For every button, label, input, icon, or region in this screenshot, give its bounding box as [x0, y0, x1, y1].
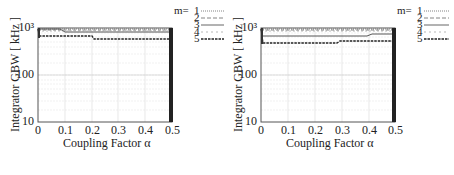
x-tick-0.5-left: 0.5	[165, 123, 180, 138]
chart-left: Integrator GBW [ kHz ] 10³ 100 10 0 0.1 …	[0, 0, 227, 175]
x-tick-0-right: 0	[258, 123, 264, 138]
chart-right: Integrator GBW [ kHz ] 10³ 100 10 0 0.1 …	[227, 0, 454, 175]
y-tick-10-left: 10	[10, 114, 34, 129]
x-axis-label-right: Coupling Factor α	[286, 136, 374, 151]
x-tick-0.5-right: 0.5	[388, 123, 403, 138]
y-tick-100-left: 100	[10, 67, 34, 82]
legend-swatches-right	[227, 0, 454, 60]
x-tick-0-left: 0	[35, 123, 41, 138]
y-tick-10-right: 10	[233, 114, 257, 129]
legend-swatches-left	[0, 0, 227, 60]
y-tick-100-right: 100	[233, 67, 257, 82]
x-axis-label-left: Coupling Factor α	[63, 136, 151, 151]
